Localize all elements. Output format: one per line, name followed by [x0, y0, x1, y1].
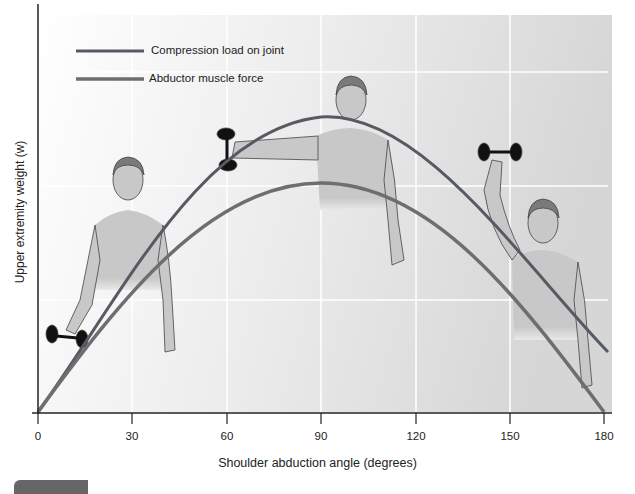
- x-tick-label: 60: [221, 430, 234, 442]
- x-tick-label: 120: [406, 430, 425, 442]
- x-tick-label: 150: [500, 430, 519, 442]
- x-tick-label: 0: [35, 430, 41, 442]
- x-tick-label: 180: [594, 430, 613, 442]
- legend-label-compression: Compression load on joint: [151, 44, 284, 56]
- x-tick-label: 90: [315, 430, 328, 442]
- legend-label-abductor: Abductor muscle force: [149, 72, 263, 84]
- x-tick-label: 30: [126, 430, 139, 442]
- figure-caption-tab: [14, 480, 88, 494]
- x-ticks: [38, 413, 604, 424]
- x-axis-title: Shoulder abduction angle (degrees): [0, 456, 635, 470]
- y-axis-title: Upper extremity weight (w): [13, 132, 27, 292]
